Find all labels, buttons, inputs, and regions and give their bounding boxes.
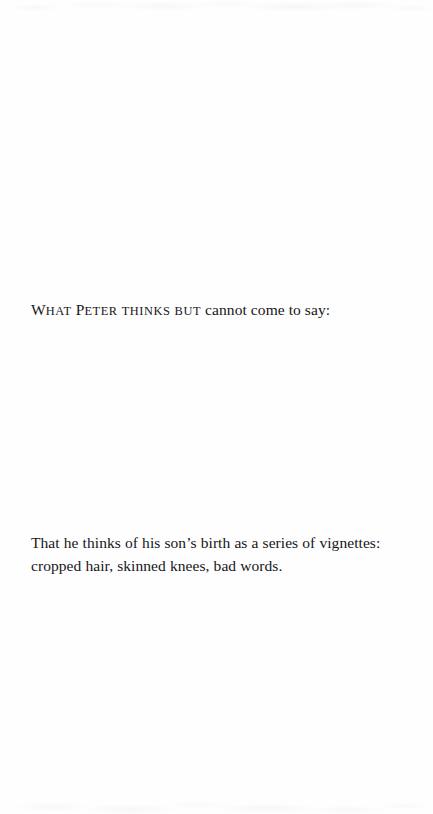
scan-artifact-bottom [0,774,433,814]
body-line-2: skinned knees, bad words. [117,557,282,574]
heading-tail-text: cannot come to say: [205,301,330,318]
book-page: What Peter thinks but cannot come to say… [0,0,433,814]
heading-word-thinks: thinks [122,304,171,318]
heading-word-but: but [175,304,201,318]
section-heading: What Peter thinks but cannot come to say… [31,300,413,321]
heading-word-peter-smallcaps: eter [84,304,117,318]
heading-word-what-smallcaps: hat [46,304,72,318]
heading-word-what: What [31,301,72,318]
scan-artifact-top [0,0,433,34]
body-paragraph: That he thinks of his son’s birth as a s… [31,532,413,578]
heading-word-what-initial: W [31,301,46,318]
heading-word-peter: Peter [76,301,118,318]
